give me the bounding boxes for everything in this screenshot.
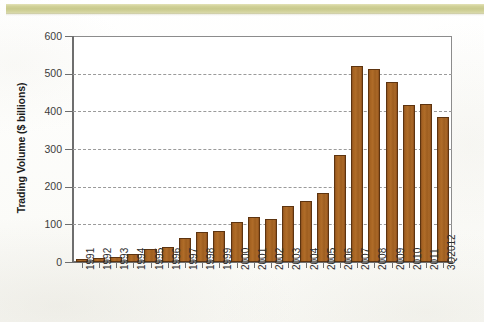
x-axis-tick-label: 2002 (275, 248, 285, 270)
x-axis-tick (151, 262, 152, 268)
x-axis-tick-label: 1994 (137, 248, 147, 270)
bar (403, 105, 415, 262)
bar (351, 66, 363, 262)
x-axis-tick-label: 2001 (258, 248, 268, 270)
x-axis-tick (306, 262, 307, 268)
x-axis-tick-label: 1992 (103, 248, 113, 270)
y-axis-tick (65, 36, 73, 37)
x-axis-tick (374, 262, 375, 268)
x-axis-tick-label: 2011 (430, 248, 440, 270)
y-axis-tick-label: 500 (24, 68, 62, 79)
x-axis-tick-label: 1998 (206, 248, 216, 270)
x-axis-tick-label: 1995 (155, 248, 165, 270)
x-axis-tick (254, 262, 255, 268)
x-axis-tick (219, 262, 220, 268)
x-axis-tick (116, 262, 117, 268)
bar-series (73, 36, 452, 262)
x-axis-tick (82, 262, 83, 268)
x-axis-tick-label: 2000 (241, 248, 251, 270)
y-axis-tick-label: 600 (24, 31, 62, 42)
y-axis-tick-label: 200 (24, 181, 62, 192)
y-axis-title: Trading Volume ($ billions) (15, 73, 27, 223)
x-axis-tick-label: 1999 (223, 248, 233, 270)
x-axis-tick-label: 1997 (189, 248, 199, 270)
x-axis-tick (185, 262, 186, 268)
x-axis-tick (202, 262, 203, 268)
x-axis-tick-label: 2007 (361, 248, 371, 270)
y-axis-tick (65, 262, 73, 263)
bar (368, 69, 380, 262)
x-axis-tick (340, 262, 341, 268)
x-axis-tick (443, 262, 444, 268)
bar (334, 155, 346, 262)
y-axis-tick (65, 187, 73, 188)
y-axis-tick-label: 0 (24, 257, 62, 268)
x-axis-tick-label: 2010 (413, 248, 423, 270)
x-axis-tick (357, 262, 358, 268)
x-axis-tick-label: 2006 (344, 248, 354, 270)
x-axis-tick-label: 3Q2012 (447, 234, 457, 270)
x-axis-tick (168, 262, 169, 268)
x-axis-tick (426, 262, 427, 268)
x-axis-tick (271, 262, 272, 268)
bar (386, 82, 398, 262)
bar-chart: 0100200300400500600 Trading Volume ($ bi… (0, 0, 484, 322)
x-axis-tick-label: 1993 (120, 248, 130, 270)
y-axis-tick (65, 149, 73, 150)
x-axis-tick-label: 2005 (327, 248, 337, 270)
x-axis-tick (409, 262, 410, 268)
y-axis-tick-label: 300 (24, 144, 62, 155)
x-axis-tick-label: 2004 (310, 248, 320, 270)
x-axis-tick (237, 262, 238, 268)
x-axis-tick-label: 1991 (86, 248, 96, 270)
bar (420, 104, 432, 262)
x-axis-tick (392, 262, 393, 268)
x-axis-tick (323, 262, 324, 268)
x-axis-tick (133, 262, 134, 268)
x-axis-tick-label: 1996 (172, 248, 182, 270)
y-axis-tick-label: 400 (24, 106, 62, 117)
x-axis-tick (99, 262, 100, 268)
x-axis-tick-label: 2009 (396, 248, 406, 270)
x-axis-tick-label: 2008 (378, 248, 388, 270)
y-axis-tick-label: 100 (24, 219, 62, 230)
y-axis-tick (65, 111, 73, 112)
y-axis-tick (65, 74, 73, 75)
x-axis-tick-label: 2003 (292, 248, 302, 270)
y-axis-tick (65, 224, 73, 225)
x-axis-tick (288, 262, 289, 268)
